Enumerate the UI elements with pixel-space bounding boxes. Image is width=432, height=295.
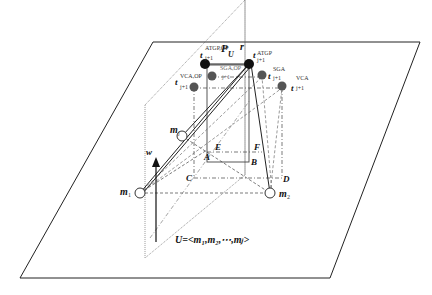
node-m2 <box>265 188 275 198</box>
target-sga-op <box>208 72 217 81</box>
line-m1-vca <box>140 88 282 193</box>
label-B: B <box>250 157 257 167</box>
w-label: w <box>146 147 153 157</box>
t-sga-sup: SGA <box>273 66 286 72</box>
target-vca <box>278 82 287 91</box>
label-A: A <box>203 152 210 162</box>
t-sga-op-sub: j+1 <box>221 74 230 80</box>
target-sga <box>258 71 267 80</box>
label-mj-sub: j <box>177 130 180 136</box>
node-m1 <box>135 188 145 198</box>
label-C: C <box>186 173 193 183</box>
t-vca: t <box>291 83 294 93</box>
diagram-canvas: P U r w A B C D E F m 1 m 2 m j t ATGP,O… <box>0 0 432 295</box>
target-atgp <box>244 59 254 69</box>
vertical-plane <box>145 0 245 258</box>
t-sga-sub: j+1 <box>272 75 281 81</box>
label-D: D <box>282 174 290 184</box>
line-m2-vca <box>270 88 282 193</box>
plane-sub: U <box>228 50 235 59</box>
t-vca-op: t <box>175 77 178 87</box>
label-E: E <box>214 142 221 152</box>
t-vca-sub: j+1 <box>295 85 304 91</box>
t-atgp: t <box>253 50 256 60</box>
diag-line <box>150 100 250 238</box>
t-sga-op-sup: SGA,OP <box>220 65 242 71</box>
t-vca-op-sub: j+1 <box>179 84 188 90</box>
t-atgp-op: t <box>200 50 203 60</box>
line-m2-atgp <box>251 64 270 193</box>
t-atgp-sup: ATGP <box>257 50 273 56</box>
w-arrow-icon <box>152 157 160 167</box>
label-m1-sub: 1 <box>128 192 131 198</box>
set-label: U=<m₁,m₂,⋯,mⱼ> <box>175 234 249 245</box>
label-F: F <box>253 142 260 152</box>
t-vca-op-sup: VCA,OP <box>180 73 203 79</box>
t-atgp-sub: j+1 <box>256 57 265 63</box>
label-m2: m <box>279 188 287 199</box>
t-vca-sup: VCA <box>296 75 309 81</box>
t-sga: t <box>268 71 271 81</box>
line-m1-sga <box>140 77 262 193</box>
label-m2-sub: 2 <box>287 194 290 200</box>
r-label: r <box>240 41 244 52</box>
target-vca-op <box>190 83 199 92</box>
t-atgp-op-sup: ATGP,OP <box>205 45 229 51</box>
label-mj: m <box>170 124 178 135</box>
label-m1: m <box>120 186 128 197</box>
t-atgp-op-sub: j+1 <box>204 55 213 61</box>
